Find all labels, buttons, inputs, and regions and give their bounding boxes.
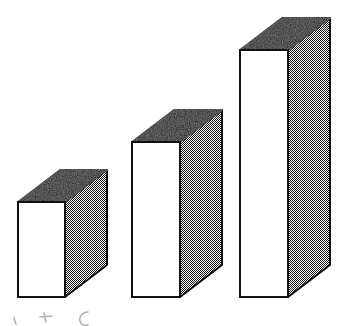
bar-chart-illustration: [0, 0, 351, 326]
bar-3-side-face: [288, 18, 330, 297]
bar-2-front-face: [132, 142, 180, 297]
bar-2: [132, 110, 222, 297]
bar-3: [240, 18, 330, 297]
bar-1-front-face: [18, 202, 65, 297]
figure-canvas: Three-dimensional growth bar chart Three…: [0, 0, 351, 326]
bar-3-front-face: [240, 50, 288, 297]
